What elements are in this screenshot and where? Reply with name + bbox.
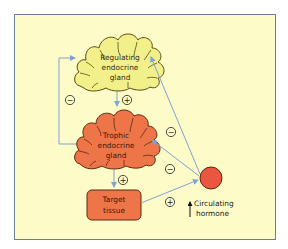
- minus-icon: −: [168, 128, 175, 137]
- trophic-gland-label-line1: Trophic: [102, 131, 129, 140]
- trophic-gland-node: Trophic endocrine gland: [75, 110, 160, 169]
- regulating-gland-node: Regulating endocrine gland: [75, 34, 164, 91]
- sign-target-to-hormone-positive: +: [165, 197, 174, 206]
- hormone-circle: [200, 167, 222, 189]
- circulating-hormone-label: Circulating hormone: [190, 199, 234, 218]
- plus-icon: +: [120, 176, 127, 185]
- trophic-gland-label-line2: endocrine: [98, 141, 135, 150]
- sign-loop-negative: −: [65, 95, 74, 104]
- regulating-gland-label-line1: Regulating: [100, 53, 140, 62]
- edge-hormone-to-trophic: [152, 140, 199, 176]
- regulating-gland-label-line3: gland: [110, 73, 131, 82]
- sign-reg-to-troph-positive: +: [122, 95, 131, 104]
- circulating-hormone-label-line2: hormone: [196, 209, 230, 218]
- plus-icon: +: [124, 96, 131, 105]
- circulating-hormone-label-line1: Circulating: [194, 199, 234, 208]
- circulating-hormone-node: [200, 167, 222, 189]
- minus-icon: −: [67, 96, 74, 105]
- edge-hormone-to-regulating: [151, 57, 200, 174]
- target-tissue-node: Target tissue: [87, 190, 141, 220]
- sign-hormone-to-troph-negative: −: [165, 164, 174, 173]
- regulating-gland-label-line2: endocrine: [102, 63, 139, 72]
- sign-troph-to-target-positive: +: [118, 175, 127, 184]
- minus-icon: −: [167, 165, 174, 174]
- target-tissue-label-line2: tissue: [103, 206, 125, 215]
- sign-hormone-to-reg-negative: −: [166, 127, 175, 136]
- endocrine-feedback-diagram: Regulating endocrine gland Trophic endoc…: [0, 0, 288, 249]
- target-tissue-label-line1: Target: [102, 195, 126, 204]
- plus-icon: +: [167, 198, 174, 207]
- trophic-gland-label-line3: gland: [106, 151, 127, 160]
